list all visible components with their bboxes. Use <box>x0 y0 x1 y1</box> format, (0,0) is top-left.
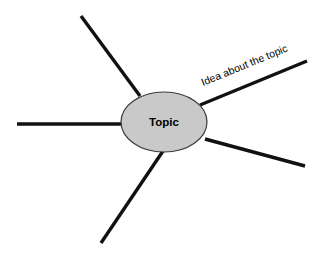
branch-label-group: Idea about the topic <box>199 42 289 88</box>
branch-line-bottom-right[interactable] <box>205 139 305 166</box>
center-node-group[interactable]: Topic <box>121 92 207 152</box>
center-node-label: Topic <box>149 116 179 128</box>
mind-map-canvas: Topic Idea about the topic <box>0 0 328 258</box>
branch-line-top-left[interactable] <box>81 16 140 96</box>
mind-map-diagram: Topic Idea about the topic <box>0 0 328 258</box>
branch-line-bottom-left[interactable] <box>101 151 163 243</box>
branch-label-top-right: Idea about the topic <box>199 42 289 88</box>
branch-line-top-right[interactable] <box>200 61 307 105</box>
